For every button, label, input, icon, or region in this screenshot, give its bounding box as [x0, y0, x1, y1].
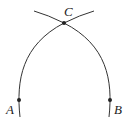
- label-c: C: [64, 4, 73, 19]
- point-b: [108, 98, 112, 102]
- label-b: B: [114, 102, 122, 117]
- label-a: A: [5, 102, 14, 117]
- construction-diagram: C A B: [0, 0, 129, 122]
- point-a: [17, 98, 21, 102]
- arc-left: [19, 11, 94, 117]
- arc-right: [34, 11, 110, 117]
- point-c: [62, 21, 66, 25]
